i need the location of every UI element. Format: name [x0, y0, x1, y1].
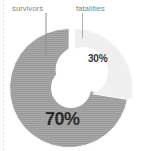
slice-value-survivors: 70%: [45, 110, 80, 128]
donut-chart: survivors fatalities 30% 70%: [0, 0, 143, 151]
donut-center-hole: [51, 68, 91, 108]
callout-label-survivors: survivors: [12, 5, 43, 13]
slice-value-fatalities: 30%: [88, 54, 107, 64]
callout-label-fatalities: fatalities: [76, 5, 105, 13]
